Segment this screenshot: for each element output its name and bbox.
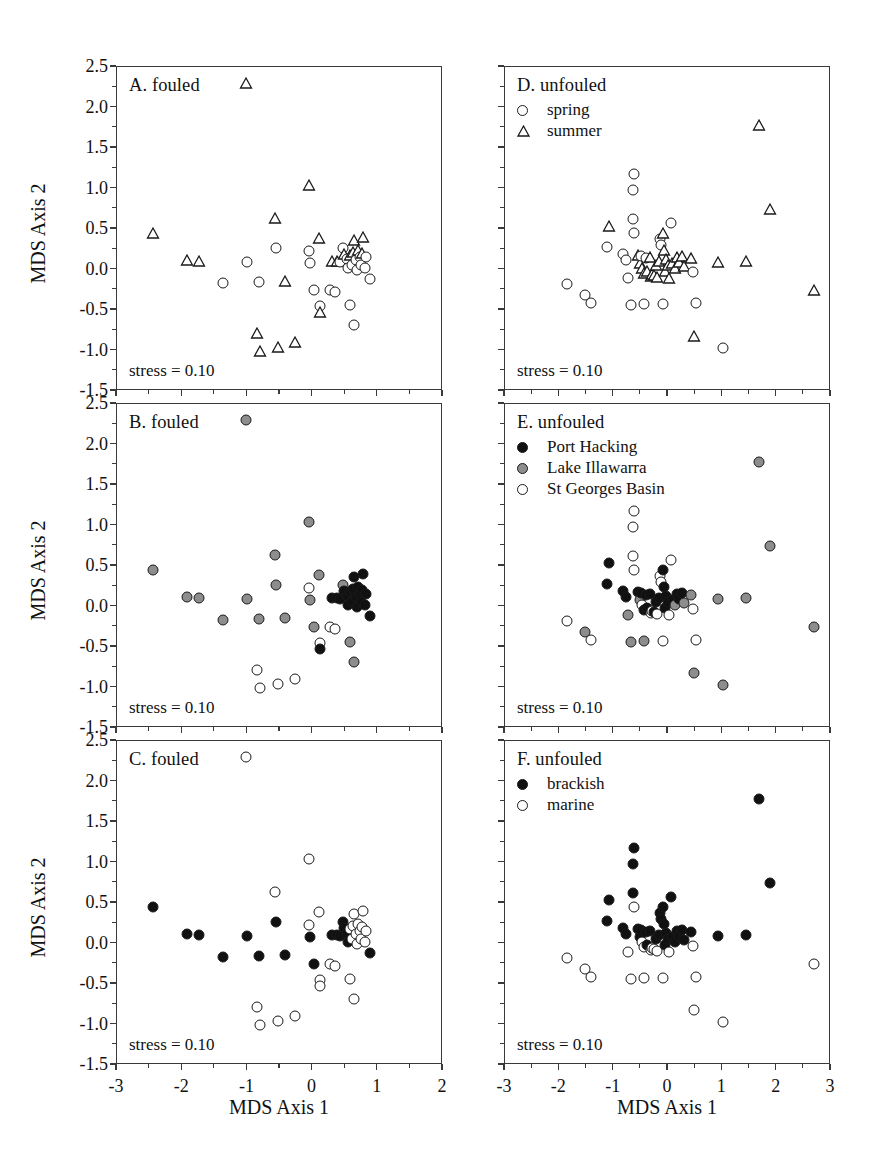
- plot-area-c: [117, 741, 441, 1063]
- y-tick-label: -1.0: [52, 1013, 108, 1034]
- data-point-circle: [622, 946, 633, 957]
- data-point-circle: [622, 609, 633, 620]
- data-point-circle: [181, 928, 192, 939]
- panel-a: A. fouledstress = 0.10: [116, 66, 442, 390]
- data-point-circle: [627, 522, 638, 533]
- y-tick-label: 1.0: [52, 514, 108, 535]
- x-tick-minor: [802, 390, 803, 394]
- data-point-circle: [289, 674, 300, 685]
- data-point-circle: [627, 859, 638, 870]
- x-tick-minor: [278, 390, 279, 394]
- data-point-circle: [689, 667, 700, 678]
- x-tick: [775, 727, 776, 733]
- y-tick-minor: [500, 288, 504, 289]
- y-tick-minor: [112, 841, 116, 842]
- x-tick: [181, 390, 182, 396]
- y-tick: [110, 1023, 116, 1024]
- y-tick-minor: [500, 841, 504, 842]
- y-tick-label: 0.5: [52, 218, 108, 239]
- y-tick: [110, 780, 116, 781]
- x-tick: [181, 727, 182, 733]
- data-point-circle: [364, 948, 375, 959]
- data-point-circle: [664, 946, 675, 957]
- y-tick-minor: [500, 544, 504, 545]
- y-tick: [498, 349, 504, 350]
- data-point-circle: [361, 252, 372, 263]
- y-tick: [110, 861, 116, 862]
- data-point-circle: [687, 940, 698, 951]
- x-tick-minor: [213, 1064, 214, 1068]
- data-point-circle: [664, 609, 675, 620]
- y-tick-minor: [112, 666, 116, 667]
- y-tick: [110, 227, 116, 228]
- y-tick-minor: [500, 463, 504, 464]
- x-tick: [115, 727, 116, 733]
- x-tick-minor: [344, 390, 345, 394]
- x-tick-minor: [148, 390, 149, 394]
- data-point-circle: [358, 906, 369, 917]
- y-tick-minor: [500, 881, 504, 882]
- y-tick-minor: [112, 922, 116, 923]
- y-tick-minor: [500, 922, 504, 923]
- data-point-circle: [218, 952, 229, 963]
- x-tick-minor: [409, 727, 410, 731]
- data-point-circle: [620, 254, 631, 265]
- x-tick: [829, 1064, 830, 1070]
- legend-label: Lake Illawarra: [547, 458, 647, 478]
- y-tick: [498, 65, 504, 66]
- x-tick-minor: [409, 1064, 410, 1068]
- data-point-circle: [349, 656, 360, 667]
- data-point-circle: [629, 565, 640, 576]
- y-tick-minor: [500, 706, 504, 707]
- y-tick-minor: [500, 207, 504, 208]
- data-point-circle: [691, 297, 702, 308]
- plot-area-a: [117, 67, 441, 389]
- y-tick: [110, 268, 116, 269]
- x-tick-minor: [694, 1064, 695, 1068]
- y-tick-label: 0.5: [52, 555, 108, 576]
- x-tick-label: 0: [663, 1076, 672, 1097]
- y-tick: [110, 982, 116, 983]
- data-point-circle: [666, 217, 677, 228]
- y-tick: [498, 1023, 504, 1024]
- data-point-triangle: [269, 212, 282, 224]
- data-point-triangle: [357, 231, 370, 243]
- data-point-circle: [364, 611, 375, 622]
- x-tick: [666, 1064, 667, 1070]
- panel-label-d: D. unfouled: [517, 75, 606, 96]
- y-tick-label: -1.0: [52, 339, 108, 360]
- x-tick: [612, 727, 613, 733]
- circle-icon: [517, 105, 528, 116]
- x-tick-minor: [585, 1064, 586, 1068]
- triangle-icon: [517, 125, 530, 137]
- y-tick: [498, 942, 504, 943]
- y-tick-minor: [500, 760, 504, 761]
- data-point-circle: [657, 299, 668, 310]
- data-point-circle: [602, 241, 613, 252]
- data-point-circle: [361, 589, 372, 600]
- data-point-circle: [273, 679, 284, 690]
- data-point-circle: [361, 926, 372, 937]
- y-tick-minor: [500, 369, 504, 370]
- y-tick: [498, 686, 504, 687]
- x-tick: [829, 390, 830, 396]
- stress-label-b: stress = 0.10: [129, 698, 215, 718]
- x-tick: [441, 390, 442, 396]
- data-point-circle: [754, 793, 765, 804]
- panel-e: E. unfouledstress = 0.10Port HackingLake…: [504, 403, 830, 727]
- data-point-circle: [315, 643, 326, 654]
- data-point-circle: [241, 415, 252, 426]
- data-point-circle: [218, 278, 229, 289]
- data-point-circle: [602, 578, 613, 589]
- data-point-circle: [808, 958, 819, 969]
- x-tick: [376, 390, 377, 396]
- y-tick-label: -1.0: [52, 676, 108, 697]
- y-tick: [498, 227, 504, 228]
- data-point-circle: [304, 517, 315, 528]
- y-tick-label: 1.0: [52, 851, 108, 872]
- plot-area-b: [117, 404, 441, 726]
- data-point-circle: [666, 554, 677, 565]
- data-point-circle: [194, 929, 205, 940]
- data-point-circle: [741, 593, 752, 604]
- data-point-circle: [666, 891, 677, 902]
